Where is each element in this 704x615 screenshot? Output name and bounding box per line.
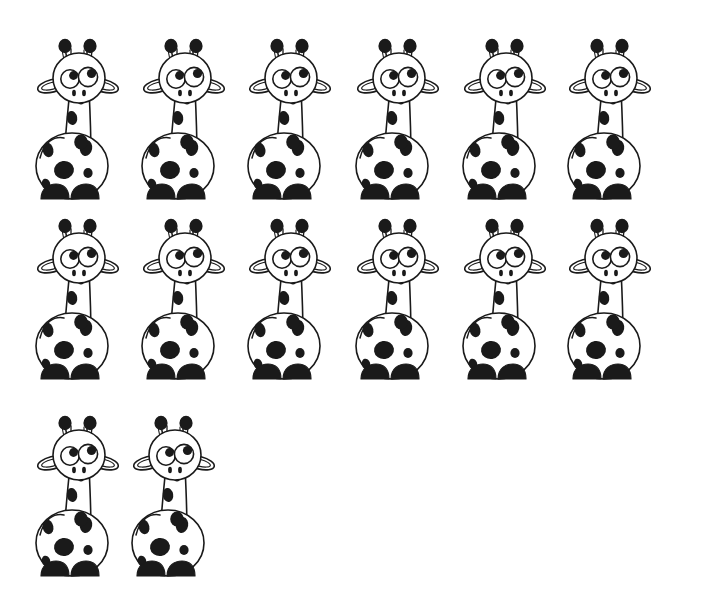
giraffe-icon <box>560 218 656 383</box>
giraffe-figure <box>28 218 124 383</box>
giraffe-figure <box>28 415 124 580</box>
giraffe-figure <box>348 218 444 383</box>
giraffe-icon <box>134 38 230 203</box>
giraffe-icon <box>28 38 124 203</box>
giraffe-icon <box>240 38 336 203</box>
giraffe-body-art <box>246 39 334 199</box>
giraffe-body-art <box>354 219 442 379</box>
giraffe-body-art <box>461 219 549 379</box>
giraffe-body-art <box>140 219 228 379</box>
giraffe-icon <box>560 38 656 203</box>
giraffe-figure <box>28 38 124 203</box>
giraffe-figure <box>240 38 336 203</box>
giraffe-figure <box>134 218 230 383</box>
giraffe-icon <box>134 218 230 383</box>
giraffe-icon <box>28 415 124 580</box>
giraffe-body-art <box>566 219 654 379</box>
giraffe-icon <box>348 218 444 383</box>
giraffe-body-art <box>34 416 122 576</box>
giraffe-body-art <box>566 39 654 199</box>
giraffe-figure <box>560 38 656 203</box>
giraffe-icon <box>348 38 444 203</box>
giraffe-figure <box>455 218 551 383</box>
giraffe-body-art <box>34 39 122 199</box>
giraffe-body-art <box>34 219 122 379</box>
giraffe-row-3 <box>0 415 704 580</box>
giraffe-body-art <box>246 219 334 379</box>
giraffe-icon <box>455 38 551 203</box>
giraffe-figure <box>240 218 336 383</box>
giraffe-figure <box>124 415 220 580</box>
giraffe-figure <box>560 218 656 383</box>
illustration-canvas <box>0 0 704 615</box>
giraffe-body-art <box>354 39 442 199</box>
giraffe-icon <box>455 218 551 383</box>
giraffe-icon <box>240 218 336 383</box>
giraffe-body-art <box>130 416 218 576</box>
giraffe-body-art <box>140 39 228 199</box>
giraffe-row-1 <box>0 38 704 203</box>
giraffe-body-art <box>461 39 549 199</box>
giraffe-figure <box>134 38 230 203</box>
giraffe-icon <box>124 415 220 580</box>
giraffe-row-2 <box>0 218 704 383</box>
giraffe-figure <box>455 38 551 203</box>
giraffe-figure <box>348 38 444 203</box>
giraffe-icon <box>28 218 124 383</box>
